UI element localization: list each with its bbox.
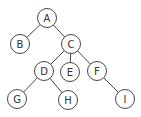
edge-a-b [27,25,40,38]
node-d: D [35,62,54,81]
node-label: H [64,95,72,106]
node-b: B [11,35,30,54]
node-label: A [44,13,51,24]
edge-d-h [50,78,62,92]
edge-d-g [24,78,38,92]
tree-diagram: ABCDEFGHI [0,0,141,117]
node-a: A [38,9,57,28]
node-f: F [88,62,107,81]
nodes-layer: ABCDEFGHI [8,9,135,110]
node-label: G [13,94,21,105]
node-c: C [62,35,81,54]
node-label: E [67,67,73,78]
node-label: C [68,39,75,50]
node-label: B [17,39,24,50]
node-i: I [116,90,135,109]
node-g: G [8,90,27,109]
edge-c-d [51,51,65,65]
node-h: H [59,91,78,110]
node-e: E [61,63,80,82]
node-label: I [124,94,127,105]
node-label: D [40,66,48,77]
node-label: F [94,66,100,77]
edge-c-f [78,51,91,64]
edge-a-c [53,25,64,37]
edge-f-i [104,78,119,93]
